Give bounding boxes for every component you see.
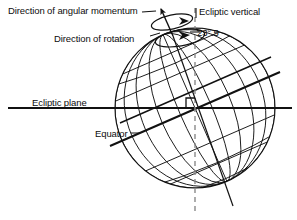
label-rotation: Direction of rotation xyxy=(54,34,134,44)
angular-momentum-leader xyxy=(142,11,156,12)
label-tilt-angle: 23°.5 xyxy=(197,28,219,38)
label-angular-momentum: Direction of angular momentum xyxy=(8,6,138,16)
rotation-axis-line xyxy=(173,36,233,206)
right-angle-marker xyxy=(186,98,195,108)
rotation-leader xyxy=(150,33,160,36)
label-ecliptic-vertical: Ecliptic vertical xyxy=(199,7,260,17)
diagram-canvas xyxy=(0,0,297,220)
label-ecliptic-plane: Ecliptic plane xyxy=(32,98,87,108)
ecliptic-tilt-diagram: Direction of angular momentum Direction … xyxy=(0,0,297,220)
label-equator: Equator xyxy=(95,129,128,139)
